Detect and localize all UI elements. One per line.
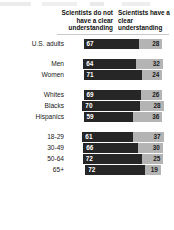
row-label: 30-49 [0,142,64,153]
table-row: U.S. adults6728 [0,38,174,49]
table-row: Hispanics5936 [0,111,174,122]
bar-segment-do-not-understand: 64 [83,59,136,69]
bar-segment-understand: 26 [141,90,163,100]
table-row: Blacks7028 [0,100,174,111]
legend-label-understand: Scientists have a clear understanding [118,9,172,32]
bar-segment-do-not-understand: 72 [83,154,143,164]
header-divider [57,34,169,35]
row-label: Women [0,69,64,80]
stacked-bar: 7028 [82,101,163,111]
stacked-bar: 7225 [83,154,164,164]
bar-segment-do-not-understand: 67 [84,39,140,49]
row-label: Men [0,58,64,69]
stacked-bar: 6728 [84,39,163,49]
row-label: Hispanics [0,111,64,122]
table-row: Men6432 [0,58,174,69]
table-row: 18-296137 [0,131,174,142]
stacked-bar: 6432 [83,59,163,69]
row-label: Whites [0,89,64,100]
bar-segment-do-not-understand: 61 [82,132,133,142]
bar-segment-understand: 19 [145,165,161,175]
row-label: 65+ [0,164,64,175]
legend-label-do-not-understand: Scientists do not have a clear understan… [57,9,113,32]
bar-segment-understand: 37 [133,132,164,142]
table-row: Whites6926 [0,89,174,100]
top-edge-artifact [0,2,174,6]
row-label: Blacks [0,100,64,111]
chart-canvas: Scientists do not have a clear understan… [0,0,174,230]
table-row: 65+7219 [0,164,174,175]
bar-segment-understand: 28 [140,101,163,111]
stacked-bar: 6137 [82,132,163,142]
row-label: 18-29 [0,131,64,142]
row-label: U.S. adults [0,38,64,49]
stacked-bar: 5936 [84,112,163,122]
stacked-bar: 7124 [84,70,163,80]
bar-segment-understand: 25 [142,154,163,164]
bar-segment-do-not-understand: 71 [84,70,143,80]
bar-segment-understand: 28 [139,39,162,49]
bar-segment-do-not-understand: 66 [83,143,138,153]
bar-segment-understand: 36 [133,112,163,122]
bar-segment-do-not-understand: 72 [85,165,145,175]
bar-segment-do-not-understand: 59 [84,112,133,122]
table-row: 30-496630 [0,142,174,153]
stacked-bar: 7219 [85,165,161,175]
bar-segment-understand: 24 [142,70,162,80]
bar-segment-understand: 32 [136,59,163,69]
row-label: 50-64 [0,153,64,164]
stacked-bar: 6630 [83,143,163,153]
table-row: 50-647225 [0,153,174,164]
table-row: Women7124 [0,69,174,80]
bar-segment-do-not-understand: 70 [82,101,140,111]
bar-segment-understand: 30 [138,143,163,153]
stacked-bar: 6926 [84,90,163,100]
bar-segment-do-not-understand: 69 [84,90,141,100]
